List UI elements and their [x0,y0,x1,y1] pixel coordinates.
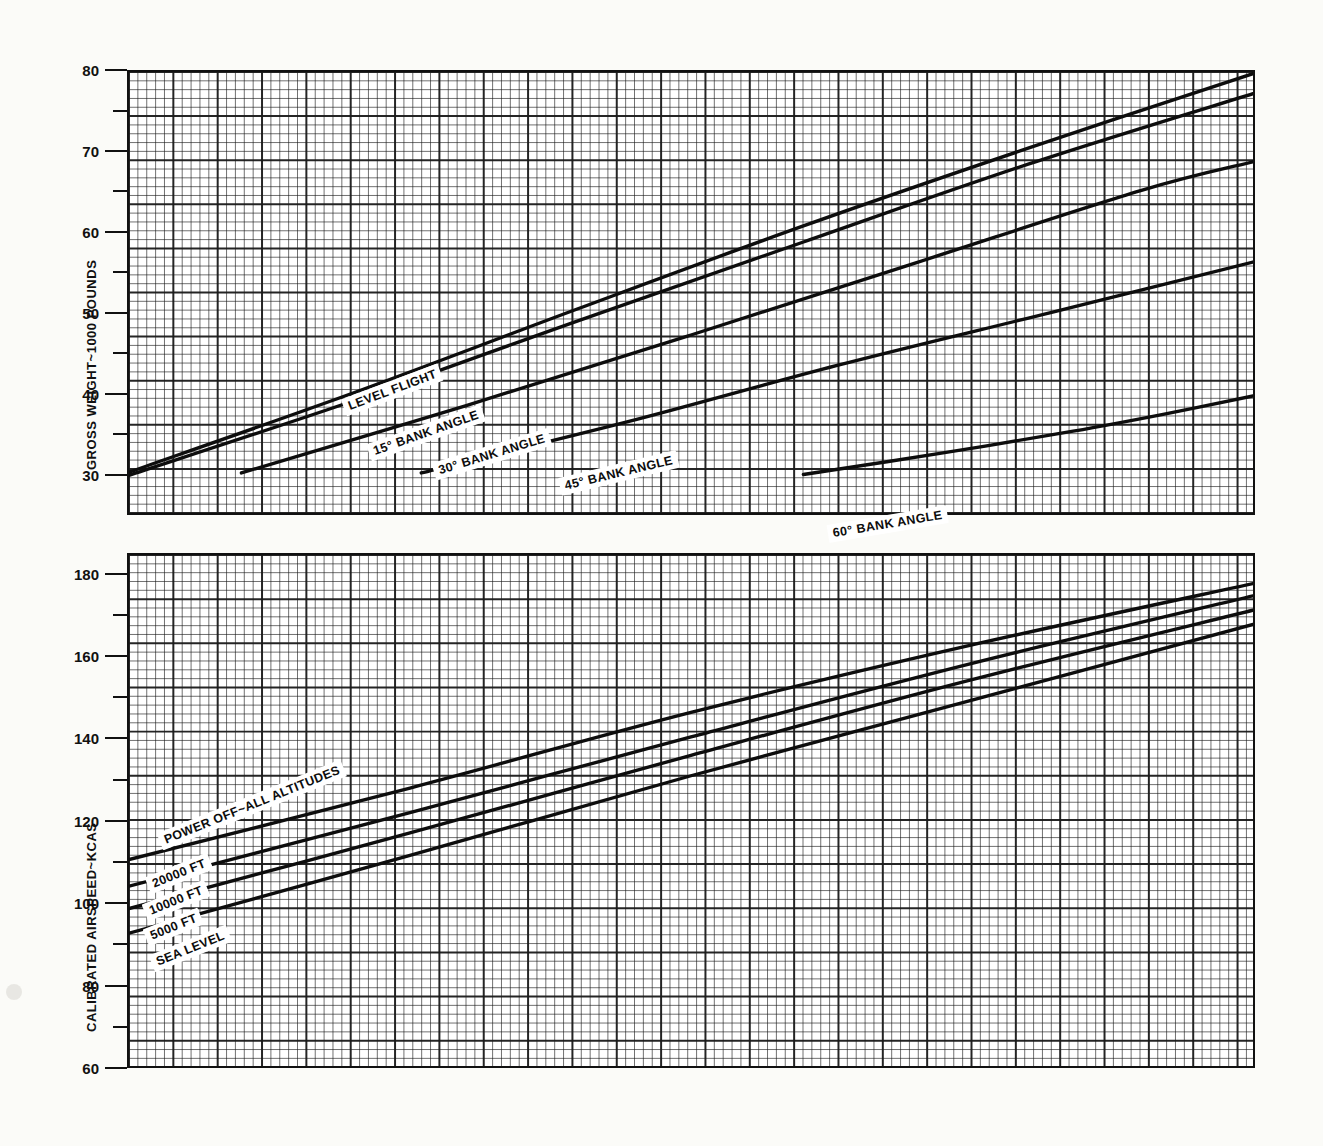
y-tick-label: 80 [55,977,99,994]
y-tick-label: 30 [55,466,99,483]
y-tick-minor [113,614,127,616]
y-tick-label: 120 [55,812,99,829]
scan-speck [6,984,22,1000]
upper-grid [129,72,1253,513]
y-tick-minor [113,352,127,354]
y-tick-minor [113,861,127,863]
lower-plot-area [127,553,1255,1068]
upper-y-axis-title: GROSS WEIGHT~1000 POUNDS [84,260,99,470]
y-tick-major [105,69,127,71]
y-tick-minor [113,779,127,781]
lower-grid [129,555,1253,1066]
y-tick-label: 180 [55,565,99,582]
y-tick-major [105,902,127,904]
y-tick-major [105,820,127,822]
y-tick-minor [113,271,127,273]
y-tick-minor [113,433,127,435]
y-tick-major [105,393,127,395]
y-tick-label: 100 [55,895,99,912]
y-tick-label: 40 [55,385,99,402]
y-tick-minor [113,190,127,192]
y-tick-label: 70 [55,142,99,159]
lower-y-axis-title: CALIBRATED AIRSPEED~KCAS [84,822,99,1032]
y-tick-minor [113,110,127,112]
y-tick-minor [113,1026,127,1028]
y-tick-major [105,474,127,476]
y-tick-minor [113,696,127,698]
y-tick-minor [113,943,127,945]
y-tick-major [105,573,127,575]
y-tick-major [105,737,127,739]
y-tick-label: 60 [55,223,99,240]
y-tick-major [105,1067,127,1069]
y-tick-major [105,150,127,152]
y-tick-label: 80 [55,62,99,79]
y-tick-label: 60 [55,1060,99,1077]
y-tick-major [105,985,127,987]
y-tick-label: 160 [55,648,99,665]
y-tick-label: 140 [55,730,99,747]
upper-plot-area [127,70,1255,515]
y-tick-major [105,231,127,233]
y-tick-major [105,312,127,314]
y-tick-label: 50 [55,304,99,321]
y-tick-major [105,655,127,657]
